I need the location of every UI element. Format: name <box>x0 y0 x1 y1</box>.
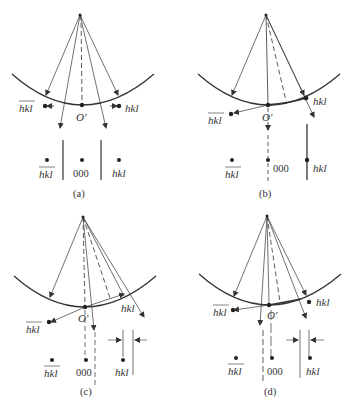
label-hkl-bar: hkl <box>208 114 221 126</box>
svg-text:hkl: hkl <box>316 296 329 308</box>
svg-text:hkl: hkl <box>44 367 57 379</box>
svg-text:hkl: hkl <box>213 306 226 318</box>
spot-label-center: 000 <box>73 168 89 179</box>
svg-text:hkl: hkl <box>121 302 134 314</box>
svg-text:hkl: hkl <box>115 366 128 378</box>
origin-point <box>80 103 84 107</box>
ewald-sphere-figure: hkl hkl O′ hkl 000 hkl (a) hkl hkl O′ <box>0 0 357 410</box>
caption-c: (c) <box>80 386 92 398</box>
spot-label-right: hkl <box>112 167 125 179</box>
svg-text:hkl: hkl <box>26 323 39 335</box>
incident-ray <box>46 15 80 95</box>
svg-text:O′: O′ <box>267 309 278 321</box>
ewald-sphere-arc <box>12 74 154 105</box>
label-hkl: hkl <box>125 102 138 114</box>
label-origin: O′ <box>76 111 87 123</box>
caption-b: (b) <box>259 188 272 200</box>
svg-text:hkl: hkl <box>313 162 326 174</box>
incident-ray <box>80 15 118 95</box>
svg-text:000: 000 <box>273 163 289 174</box>
caption-a: (a) <box>73 188 85 200</box>
svg-text:hkl: hkl <box>225 168 238 180</box>
spot-left <box>45 158 49 162</box>
svg-text:O′: O′ <box>78 312 89 324</box>
svg-text:000: 000 <box>267 366 283 377</box>
caption-d: (d) <box>264 386 277 398</box>
reciprocal-point-right <box>117 104 121 108</box>
label-hkl: hkl <box>313 95 326 107</box>
spot-label-left: hkl <box>39 168 52 180</box>
svg-text:000: 000 <box>76 367 92 378</box>
reciprocal-point-left <box>43 104 47 108</box>
label-origin: O′ <box>262 111 273 123</box>
spot-center <box>80 158 84 162</box>
panel-a <box>12 15 154 180</box>
transmitted-beam <box>81 15 82 104</box>
spot-right <box>117 158 121 162</box>
label-hkl-bar: hkl <box>19 102 32 114</box>
svg-text:hkl: hkl <box>228 365 241 377</box>
svg-text:hkl: hkl <box>306 365 319 377</box>
